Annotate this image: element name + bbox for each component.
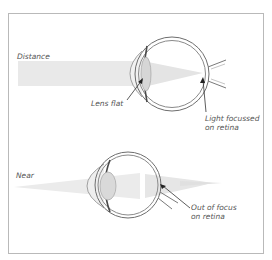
near-lens [100,172,116,200]
distance-converging-beam [148,62,203,86]
out-of-focus-label-line2: on retina [191,213,225,221]
light-focussed-label-line1: Light focussed [205,115,259,123]
focus-arrow-icon [200,77,205,83]
distance-optic-nerve [208,60,226,88]
distance-light-beam [18,61,145,86]
distance-cornea [130,51,142,97]
distance-lens [141,57,151,91]
light-focussed-label-line2: on retina [205,124,239,132]
lens-flat-label: Lens flat [91,100,123,108]
near-label: Near [16,172,34,180]
distance-label: Distance [17,53,50,61]
out-of-focus-label-line1: Out of focus [191,204,237,212]
near-optic-nerve [158,192,178,209]
near-beam-inside [145,174,212,198]
